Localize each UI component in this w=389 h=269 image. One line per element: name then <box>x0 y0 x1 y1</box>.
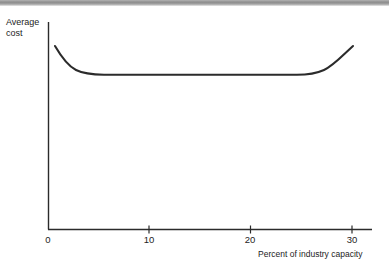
x-tick-label-30: 30 <box>347 234 358 245</box>
y-axis-label-line1: Average <box>6 17 39 27</box>
x-tick-label-0: 0 <box>45 234 50 245</box>
y-axis-label-line2: cost <box>6 28 39 39</box>
chart-screenshot: Average cost Percent of industry capacit… <box>0 0 389 269</box>
average-cost-curve <box>55 46 353 75</box>
plot-area <box>0 0 389 269</box>
average-cost-chart: Average cost Percent of industry capacit… <box>0 0 389 269</box>
x-tick-label-10: 10 <box>144 234 155 245</box>
x-axis-label: Percent of industry capacity <box>258 249 362 259</box>
y-axis-label: Average cost <box>6 17 39 39</box>
x-tick-label-20: 20 <box>245 234 256 245</box>
